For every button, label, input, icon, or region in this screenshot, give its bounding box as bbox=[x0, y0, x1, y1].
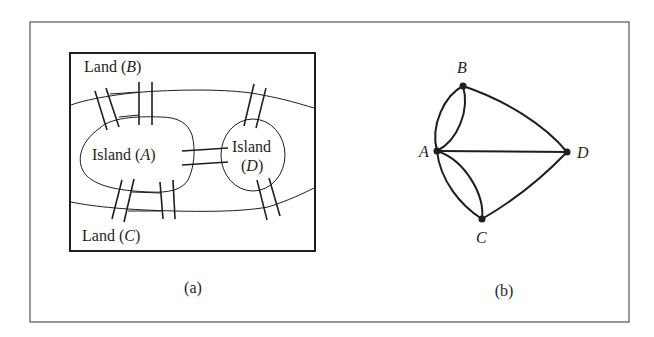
node-label-d: D bbox=[576, 144, 589, 161]
label-island-d-line1: Island bbox=[232, 138, 271, 155]
edge-a-d bbox=[437, 151, 567, 152]
bridge-c-d bbox=[257, 178, 280, 220]
node-b bbox=[460, 83, 467, 90]
bridge-b-d bbox=[244, 84, 266, 128]
node-c bbox=[479, 216, 486, 223]
bridge-c-a-1 bbox=[112, 179, 134, 222]
node-label-b: B bbox=[457, 59, 467, 76]
caption-b: (b) bbox=[495, 282, 514, 300]
node-label-c: C bbox=[476, 229, 487, 246]
bridge-c-a-2 bbox=[160, 180, 175, 219]
edge-a-c-2 bbox=[437, 151, 482, 219]
label-island-d-line2: (D) bbox=[241, 157, 263, 175]
bridge-b-a-2 bbox=[139, 82, 152, 125]
node-d bbox=[564, 149, 571, 156]
edge-c-d bbox=[482, 152, 567, 219]
label-island-a: Island (A) bbox=[92, 146, 156, 164]
panel-b-graph: A B C D (b) bbox=[418, 59, 589, 300]
label-land-c: Land (C) bbox=[82, 227, 140, 245]
konigsberg-figure: Land (B) Land (C) Island (A) Island (D) … bbox=[0, 0, 654, 337]
panel-a-map: Land (B) Land (C) Island (A) Island (D) … bbox=[70, 53, 315, 297]
graph-edges bbox=[435, 86, 567, 219]
node-label-a: A bbox=[418, 143, 429, 160]
node-a bbox=[434, 148, 441, 155]
edge-b-d bbox=[463, 86, 567, 152]
island-d-outline bbox=[221, 119, 285, 191]
caption-a: (a) bbox=[184, 279, 202, 297]
label-land-b: Land (B) bbox=[84, 58, 141, 76]
